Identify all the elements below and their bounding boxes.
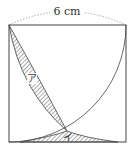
region-a bbox=[9, 25, 67, 131]
dimension-label: 6 cm bbox=[53, 5, 81, 18]
region-b-label: イ bbox=[63, 132, 73, 143]
region-a-label: ア bbox=[27, 73, 37, 84]
geometry-figure: 6 cm ア イ bbox=[0, 0, 130, 150]
